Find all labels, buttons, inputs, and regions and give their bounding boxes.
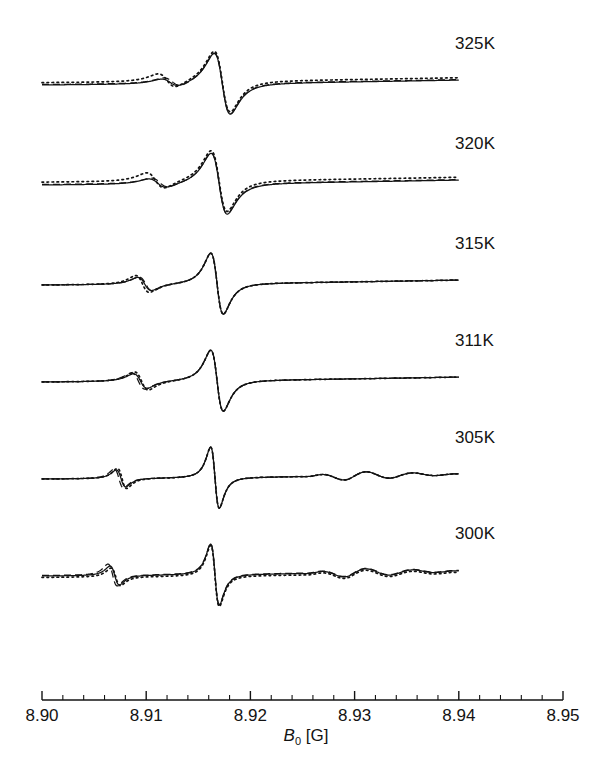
spectrum-trace-group [42, 51, 459, 114]
axis-title-unit: [G] [306, 726, 329, 745]
epr-spectra-figure: 325K320K315K311K305K300K 8.908.918.928.9… [0, 0, 612, 772]
axis-tick-label: 8.91 [130, 706, 163, 726]
spectrum-trace-group [42, 151, 459, 214]
axis-title-symbol: B [284, 726, 295, 745]
spectrum-curve-solid [42, 447, 459, 508]
temperature-label: 315K [455, 234, 495, 254]
spectrum-trace-group [42, 447, 459, 508]
axis-tick-label: 8.93 [338, 706, 371, 726]
axis-tick-label: 8.90 [25, 706, 58, 726]
axis-tick-label: 8.95 [546, 706, 579, 726]
temperature-label: 325K [455, 34, 495, 54]
spectrum-curve-solid [42, 153, 459, 214]
spectrum-trace-group [42, 350, 459, 411]
spectrum-curve-solid [42, 253, 459, 314]
temperature-label: 311K [455, 331, 494, 351]
spectrum-curve-dashed [42, 53, 459, 114]
temperature-label: 300K [455, 524, 495, 544]
axis-tick-label: 8.92 [234, 706, 267, 726]
spectrum-curve-dotted [42, 546, 459, 607]
spectra-canvas [0, 0, 612, 772]
spectrum-trace-group [42, 253, 459, 314]
axis-title: B0 [G] [0, 726, 612, 747]
spectrum-trace-group [42, 544, 459, 607]
spectrum-curve-dashed [42, 153, 459, 214]
spectrum-curve-solid [42, 350, 459, 411]
axis-title-subscript: 0 [295, 735, 301, 747]
axis-tick-label: 8.94 [442, 706, 475, 726]
temperature-label: 305K [455, 428, 495, 448]
spectrum-curve-solid [42, 53, 459, 114]
temperature-label: 320K [455, 134, 495, 154]
